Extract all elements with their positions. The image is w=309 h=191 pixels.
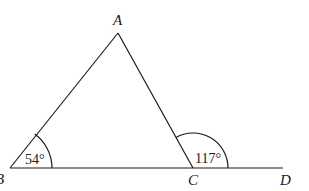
segment-AB	[10, 33, 118, 168]
point-label-A: A	[112, 12, 123, 28]
angle-label-B: 54°	[25, 152, 45, 167]
angle-label-C: 117°	[195, 151, 221, 166]
point-label-D: D	[279, 172, 291, 188]
segment-AC	[118, 33, 193, 168]
point-label-B: B	[0, 171, 4, 187]
point-label-C: C	[188, 172, 199, 188]
triangle-diagram: 54° 117° A B C D	[0, 0, 309, 191]
